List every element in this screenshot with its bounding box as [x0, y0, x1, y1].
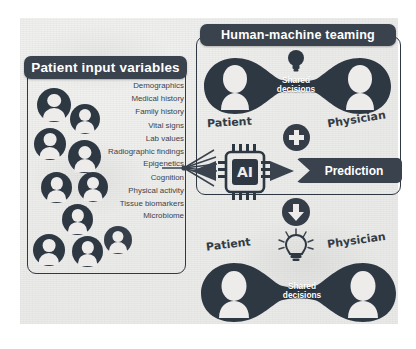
list-item: Medical history — [92, 95, 184, 103]
list-item: Vital signs — [92, 122, 184, 130]
patient-input-panel-title: Patient input variables — [24, 56, 187, 79]
shared-decisions-label-top: Shared decisions — [265, 76, 327, 93]
chip-left-wing-icon — [186, 158, 218, 184]
person-avatar-icon — [34, 128, 66, 160]
chip-label: AI — [237, 164, 253, 180]
list-item: Family history — [92, 108, 184, 116]
prediction-banner: Prediction — [296, 158, 402, 183]
lightbulb-icon-unlit — [285, 48, 307, 74]
patient-label-top: Patient — [207, 115, 252, 130]
shared-line-2: decisions — [277, 84, 315, 94]
microchip-icon: AI — [214, 143, 276, 201]
plus-circle-icon — [283, 124, 310, 151]
person-avatar-icon — [104, 226, 132, 254]
arrow-down-circle-icon — [282, 198, 310, 226]
person-avatar-icon — [72, 236, 103, 267]
person-avatar-icon — [62, 204, 93, 235]
list-item: Tissue biomarkers — [92, 200, 184, 208]
person-avatar-icon — [33, 234, 65, 266]
shared-decisions-label-bottom: Shared decisions — [271, 282, 333, 299]
human-machine-teaming-title: Human-machine teaming — [200, 24, 396, 46]
list-item: Microbiome — [92, 212, 184, 220]
list-item: Demographics — [92, 82, 184, 90]
person-avatar-icon — [37, 88, 71, 122]
shared-line-2: decisions — [283, 290, 321, 300]
figure-root: Patient input variables Demographics Med… — [0, 0, 416, 349]
chip-right-wing-icon — [270, 158, 300, 184]
person-avatar-icon — [41, 172, 72, 203]
